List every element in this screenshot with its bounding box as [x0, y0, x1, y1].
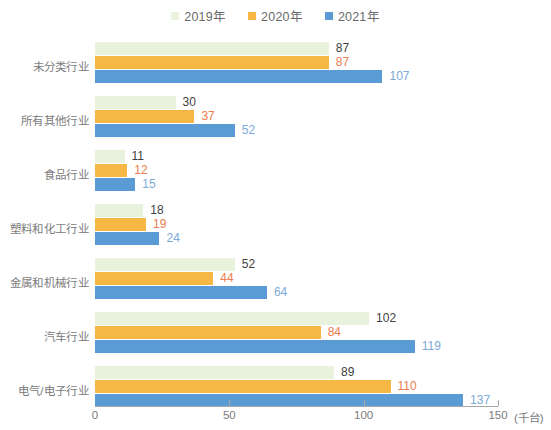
category-label: 金属和机械行业: [10, 274, 89, 290]
x-axis-tick-label: 0: [92, 409, 98, 421]
bar-2020年[interactable]: [95, 326, 321, 339]
bar-row: 44: [95, 272, 234, 285]
bar-value-label: 102: [376, 312, 396, 325]
bar-row: 87: [95, 56, 349, 69]
bar-value-label: 64: [274, 286, 287, 299]
bar-row: 24: [95, 232, 180, 245]
bar-2020年[interactable]: [95, 56, 329, 69]
x-axis-tick-label: 100: [354, 409, 373, 421]
bar-2021年[interactable]: [95, 70, 382, 83]
bar-2019年[interactable]: [95, 96, 176, 109]
bar-value-label: 24: [166, 232, 179, 245]
bar-row: 12: [95, 164, 148, 177]
bar-value-label: 110: [398, 380, 417, 393]
bar-group: 所有其他行业303752: [0, 93, 551, 147]
bar-value-label: 119: [422, 340, 441, 353]
bar-row: 18: [95, 204, 164, 217]
x-axis-tick-label: 50: [223, 409, 236, 421]
bar-2021年[interactable]: [95, 232, 159, 245]
legend-item-2020年[interactable]: 2020年: [248, 6, 303, 25]
category-label: 所有其他行业: [21, 112, 89, 128]
bar-value-label: 15: [142, 178, 155, 191]
bar-value-label: 84: [328, 326, 341, 339]
bar-row: 110: [95, 380, 417, 393]
bar-row: 52: [95, 258, 255, 271]
bar-row: 11: [95, 150, 144, 163]
plot-area: 未分类行业8787107所有其他行业303752食品行业111215塑料和化工行…: [0, 28, 551, 406]
category-label: 电气/电子行业: [18, 382, 89, 398]
x-axis-tick: [364, 400, 365, 406]
bar-2019年[interactable]: [95, 42, 329, 55]
bar-2019年[interactable]: [95, 258, 235, 271]
bar-row: 87: [95, 42, 349, 55]
bar-2021年[interactable]: [95, 178, 135, 191]
legend-swatch-icon: [248, 12, 256, 20]
bar-row: 84: [95, 326, 341, 339]
bar-row: 119: [95, 340, 441, 353]
bar-row: 19: [95, 218, 166, 231]
bar-value-label: 87: [336, 56, 349, 69]
bar-value-label: 37: [201, 110, 214, 123]
bar-2021年[interactable]: [95, 340, 415, 353]
bar-row: 15: [95, 178, 156, 191]
bar-chart: 2019年2020年2021年 未分类行业8787107所有其他行业303752…: [0, 0, 551, 430]
x-axis-tick-label: 150: [488, 409, 507, 421]
bar-value-label: 12: [134, 164, 147, 177]
category-label: 塑料和化工行业: [10, 220, 89, 236]
bar-2019年[interactable]: [95, 366, 334, 379]
bar-2019年[interactable]: [95, 150, 125, 163]
category-label: 汽车行业: [44, 328, 89, 344]
bar-group: 电气/电子行业89110137: [0, 363, 551, 417]
x-axis-tick: [229, 400, 230, 406]
bar-2021年[interactable]: [95, 286, 267, 299]
bar-2020年[interactable]: [95, 164, 127, 177]
x-axis-tick: [498, 400, 499, 406]
x-axis-unit-label: (千台): [514, 409, 544, 425]
bar-value-label: 11: [132, 150, 144, 163]
bar-2019年[interactable]: [95, 312, 369, 325]
bar-row: 89: [95, 366, 354, 379]
bar-group: 汽车行业10284119: [0, 309, 551, 363]
x-axis-line: [95, 406, 498, 407]
legend-label: 2019年: [184, 6, 226, 25]
bar-2021年[interactable]: [95, 124, 235, 137]
legend-swatch-icon: [325, 12, 333, 20]
bar-row: 102: [95, 312, 396, 325]
bar-value-label: 87: [336, 42, 349, 55]
bar-2020年[interactable]: [95, 272, 213, 285]
bar-value-label: 18: [150, 204, 163, 217]
bar-2020年[interactable]: [95, 110, 194, 123]
legend-label: 2021年: [338, 6, 380, 25]
bar-value-label: 52: [242, 124, 255, 137]
bar-value-label: 107: [389, 70, 409, 83]
bar-row: 30: [95, 96, 196, 109]
bar-row: 52: [95, 124, 255, 137]
category-label: 未分类行业: [33, 58, 90, 74]
bar-group: 金属和机械行业524464: [0, 255, 551, 309]
legend-item-2019年[interactable]: 2019年: [171, 6, 226, 25]
bar-value-label: 44: [220, 272, 233, 285]
legend-swatch-icon: [171, 12, 179, 20]
bar-value-label: 19: [153, 218, 166, 231]
bar-group: 未分类行业8787107: [0, 39, 551, 93]
bar-value-label: 52: [242, 258, 255, 271]
chart-legend: 2019年2020年2021年: [0, 6, 551, 25]
bar-2020年[interactable]: [95, 380, 391, 393]
bar-row: 107: [95, 70, 410, 83]
legend-item-2021年[interactable]: 2021年: [325, 6, 380, 25]
legend-label: 2020年: [261, 6, 303, 25]
bar-group: 塑料和化工行业181924: [0, 201, 551, 255]
category-label: 食品行业: [44, 166, 89, 182]
bar-value-label: 89: [341, 366, 354, 379]
bar-2020年[interactable]: [95, 218, 146, 231]
bar-group: 食品行业111215: [0, 147, 551, 201]
bar-2019年[interactable]: [95, 204, 143, 217]
bar-row: 37: [95, 110, 215, 123]
bar-value-label: 30: [183, 96, 196, 109]
bar-row: 64: [95, 286, 287, 299]
